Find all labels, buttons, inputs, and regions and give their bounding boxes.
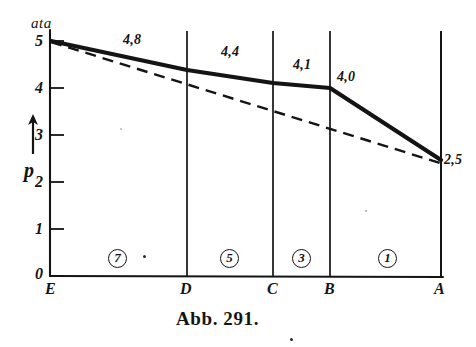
- curve-value-label-4-4: 4,4: [221, 45, 239, 59]
- curve-value-label-4-1: 4,1: [293, 58, 311, 72]
- y-tick-label-0: 0: [27, 266, 43, 282]
- y-tick-marks: [50, 41, 64, 229]
- y-tick-label-5: 5: [27, 33, 43, 49]
- x-tick-label-A: A: [434, 281, 445, 297]
- y-tick-label-1: 1: [27, 221, 43, 237]
- scan-speck: [365, 210, 367, 212]
- scan-speck: [290, 338, 293, 341]
- region-badge-1: 1: [378, 249, 397, 268]
- region-badge-7: 7: [108, 249, 127, 268]
- scan-speck: [143, 255, 146, 258]
- curve-value-label-2-5: 2,5: [444, 153, 462, 167]
- up-arrow-icon: [26, 113, 40, 155]
- region-badge-5: 5: [220, 249, 239, 268]
- curve-value-label-4-8: 4,8: [123, 33, 141, 47]
- figure-caption: Abb. 291.: [176, 308, 259, 330]
- y-axis-variable-label: p: [24, 160, 34, 180]
- x-tick-label-B: B: [324, 281, 335, 297]
- x-tick-label-C: C: [267, 281, 278, 297]
- actual-pressure-curve-line: [51, 41, 441, 160]
- x-tick-label-E: E: [45, 281, 56, 297]
- y-axis-unit-label: ata: [31, 16, 52, 31]
- scan-speck: [120, 128, 122, 130]
- x-axis-line: [50, 276, 443, 277]
- figure-abb-291: ata 5 4 3 2 1 0 p E D C B A 4,8 4,4 4,1 …: [0, 0, 476, 347]
- ideal-linear-reference-line: [51, 42, 440, 163]
- region-badge-3: 3: [292, 249, 311, 268]
- y-tick-label-4: 4: [27, 80, 43, 96]
- x-tick-label-D: D: [180, 281, 192, 297]
- curve-value-label-4-0: 4,0: [337, 70, 355, 84]
